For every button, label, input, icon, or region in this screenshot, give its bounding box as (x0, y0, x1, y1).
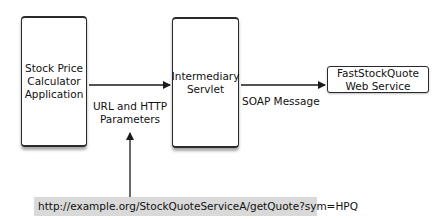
connector-arrows (0, 0, 446, 222)
edge-label-line: Parameters (88, 113, 172, 126)
edge-label-line: URL and HTTP (88, 100, 172, 113)
url-and-http-parameters-label: URL and HTTP Parameters (88, 100, 172, 126)
example-url-text: http://example.org/StockQuoteServiceA/ge… (34, 197, 317, 216)
soap-message-label: SOAP Message (242, 95, 326, 108)
